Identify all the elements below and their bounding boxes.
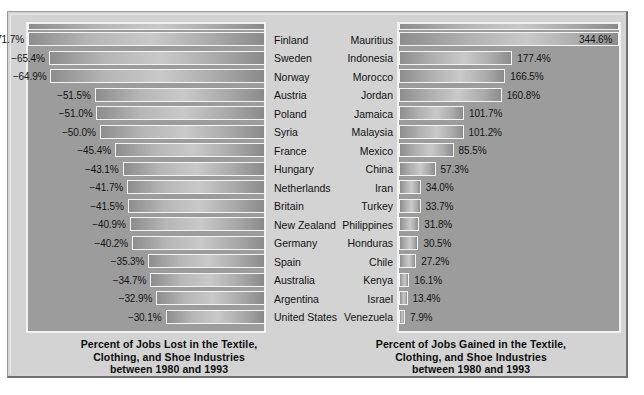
bar [399, 125, 464, 139]
value-label: 16.1% [414, 275, 442, 286]
value-label: 31.8% [424, 219, 452, 230]
bar-track [28, 162, 265, 176]
category-label: Philippines [342, 219, 393, 231]
figure-frame: −71.7%Finland−65.4%Sweden−64.9%Norway−51… [7, 11, 628, 378]
bar-row: China57.3% [321, 161, 621, 178]
bar-row: −40.9%New Zealand [19, 216, 319, 233]
bar-row: −40.2%Germany [19, 235, 319, 252]
category-label: Jamaica [354, 108, 393, 120]
bar-track [28, 69, 265, 83]
category-label: Syria [274, 126, 298, 138]
caption-jobs-gained: Percent of Jobs Gained in the Textile, C… [321, 338, 621, 376]
bar-track [28, 291, 265, 305]
value-label: 33.7% [426, 201, 454, 212]
bar [95, 88, 265, 102]
value-label: 166.5% [510, 71, 543, 82]
category-label: Hungary [274, 163, 314, 175]
value-label: 101.2% [469, 127, 502, 138]
value-label: 30.5% [423, 238, 451, 249]
bar-row: −64.9%Norway [19, 68, 319, 85]
bar [399, 88, 502, 102]
bar [49, 51, 265, 65]
category-label: Spain [274, 256, 301, 268]
bar-track [28, 310, 265, 324]
value-label: 13.4% [413, 293, 441, 304]
category-label: Argentina [274, 293, 319, 305]
category-label: Chile [369, 256, 393, 268]
bar-track [28, 106, 265, 120]
bar [128, 199, 265, 213]
value-label: 344.6% [579, 34, 612, 45]
category-label: Norway [274, 71, 310, 83]
value-label: 57.3% [441, 164, 469, 175]
bar-rows-jobs-gained: Mauritius344.6%Indonesia177.4%Morocco166… [321, 22, 621, 333]
category-label: Germany [274, 237, 317, 249]
bar-track [28, 217, 265, 231]
bar-track [28, 199, 265, 213]
bar-row: −51.5%Austria [19, 87, 319, 104]
bar [100, 125, 265, 139]
bar-row: Chile27.2% [321, 253, 621, 270]
bar-track [28, 254, 265, 268]
bar-row: −71.7%Finland [19, 31, 319, 48]
bar [166, 310, 265, 324]
caption-jobs-lost: Percent of Jobs Lost in the Textile, Clo… [19, 338, 319, 376]
bar [115, 143, 265, 157]
bar-track [28, 88, 265, 102]
bar [399, 236, 418, 250]
caption-line-2: Clothing, and Shoe Industries [321, 351, 621, 364]
bar-row: −41.7%Netherlands [19, 179, 319, 196]
category-label: Iran [375, 182, 393, 194]
bar-track [28, 180, 265, 194]
bar-row: −45.4%France [19, 142, 319, 159]
category-label: Sweden [274, 52, 312, 64]
bar-row: Turkey33.7% [321, 198, 621, 215]
bar-row: Mexico85.5% [321, 142, 621, 159]
bar-track [399, 125, 619, 139]
category-label: Honduras [347, 237, 393, 249]
bar-track [399, 162, 619, 176]
caption-line-3: between 1980 and 1993 [321, 363, 621, 376]
bar-track [399, 143, 619, 157]
value-label: 7.9% [410, 312, 432, 323]
bar [399, 69, 505, 83]
category-label: Mauritius [350, 34, 393, 46]
plot-area-jobs-gained: Mauritius344.6%Indonesia177.4%Morocco166… [321, 22, 621, 333]
category-label: Finland [274, 34, 308, 46]
bar-row: Morocco166.5% [321, 68, 621, 85]
category-label: China [366, 163, 393, 175]
bar-track [28, 51, 265, 65]
bar [96, 106, 265, 120]
bar [399, 273, 409, 287]
value-label: 160.8% [507, 90, 540, 101]
category-label: Jordan [361, 89, 393, 101]
caption-line-1: Percent of Jobs Lost in the Textile, [19, 338, 319, 351]
caption-line-2: Clothing, and Shoe Industries [19, 351, 319, 364]
category-label: Australia [274, 274, 315, 286]
bar-track [28, 125, 265, 139]
plot-area-jobs-lost: −71.7%Finland−65.4%Sweden−64.9%Norway−51… [19, 22, 319, 333]
bar [399, 217, 419, 231]
bar [50, 69, 265, 83]
bar-row: Mauritius344.6% [321, 31, 621, 48]
bar [123, 162, 265, 176]
bar [399, 199, 421, 213]
bar-row: −34.7%Australia [19, 272, 319, 289]
bar-row: −30.1%United States [19, 309, 319, 326]
bar-row: −43.1%Hungary [19, 161, 319, 178]
category-label: Malaysia [352, 126, 393, 138]
value-label: 27.2% [421, 256, 449, 267]
bar-row: −35.3%Spain [19, 253, 319, 270]
bar-row: Kenya16.1% [321, 272, 621, 289]
bar [156, 291, 265, 305]
bar [399, 162, 436, 176]
bar [399, 143, 454, 157]
category-label: Turkey [361, 200, 393, 212]
category-label: Venezuela [344, 311, 393, 323]
bar-rows-jobs-lost: −71.7%Finland−65.4%Sweden−64.9%Norway−51… [19, 22, 319, 333]
bar-row: Iran34.0% [321, 179, 621, 196]
bar-row: −50.0%Syria [19, 124, 319, 141]
caption-line-1: Percent of Jobs Gained in the Textile, [321, 338, 621, 351]
category-label: France [274, 145, 307, 157]
category-label: Mexico [360, 145, 393, 157]
